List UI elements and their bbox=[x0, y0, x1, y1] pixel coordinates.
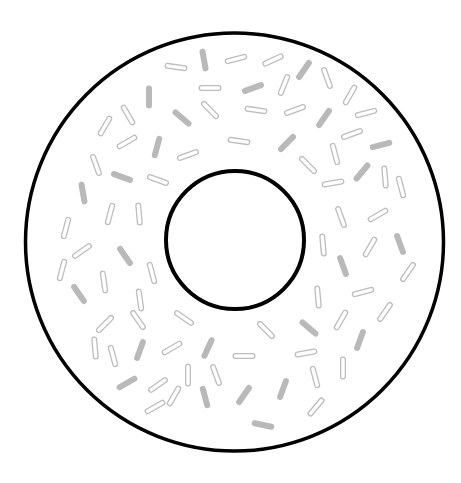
sprinkle-solid bbox=[373, 143, 389, 147]
sprinkle-outline bbox=[248, 109, 265, 111]
sprinkle-outline bbox=[94, 340, 95, 357]
sprinkle-outline bbox=[355, 290, 371, 294]
sprinkle-outline bbox=[111, 348, 115, 364]
sprinkle-outline bbox=[333, 146, 337, 162]
sprinkle-outline bbox=[399, 179, 403, 195]
sprinkle-outline bbox=[325, 182, 342, 185]
sprinkle-outline bbox=[64, 220, 68, 236]
sprinkle-outline bbox=[322, 237, 323, 254]
sprinkle-outline bbox=[358, 111, 374, 115]
sprinkle-outline bbox=[317, 289, 318, 306]
sprinkle-outline bbox=[168, 66, 185, 68]
sprinkle-outline bbox=[139, 292, 141, 309]
sprinkle-solid bbox=[255, 423, 272, 427]
sprinkle-outline bbox=[298, 352, 315, 355]
sprinkle-outline bbox=[231, 140, 248, 142]
sprinkle-solid bbox=[155, 139, 159, 155]
background bbox=[0, 0, 461, 483]
sprinkle-outline bbox=[60, 262, 64, 278]
sprinkle-outline bbox=[150, 265, 154, 281]
sprinkle-outline bbox=[313, 369, 317, 385]
sprinkle-solid bbox=[82, 185, 85, 202]
sprinkle-solid bbox=[203, 52, 206, 69]
sprinkle-outline bbox=[138, 206, 139, 223]
sprinkle-outline bbox=[228, 57, 244, 61]
donut-illustration bbox=[0, 0, 461, 483]
sprinkle-outline bbox=[103, 274, 105, 291]
sprinkle-outline bbox=[384, 169, 385, 186]
sprinkle-outline bbox=[108, 206, 112, 222]
sprinkle-solid bbox=[203, 389, 207, 405]
